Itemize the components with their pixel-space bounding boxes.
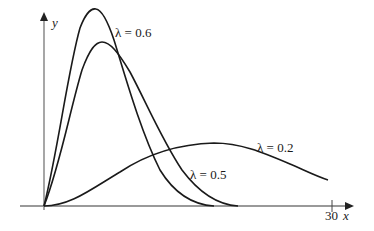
annotation-lambda-0-6: λ = 0.6 [115, 25, 152, 40]
y-axis-arrow-icon [40, 12, 48, 21]
gamma-distribution-chart: y 30 x λ = 0.6 λ = 0.5 λ = 0.2 [0, 0, 374, 231]
annotation-lambda-0-5: λ = 0.5 [190, 167, 226, 182]
curves [44, 9, 328, 206]
x-axis-label: x [342, 208, 349, 223]
annotation-lambda-0-2: λ = 0.2 [257, 140, 293, 155]
x-tick-label-30: 30 [325, 208, 338, 223]
y-axis-label: y [50, 15, 58, 30]
